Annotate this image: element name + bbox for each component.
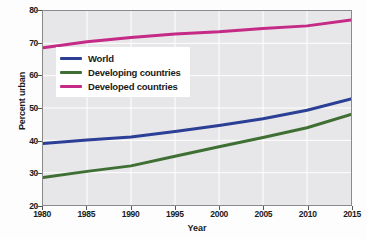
x-tick-label: 1995 (155, 209, 195, 219)
x-tick-label: 2005 (243, 209, 283, 219)
y-tick-label: 40 (14, 136, 38, 146)
x-tick-label: 1990 (111, 209, 151, 219)
x-tick-label: 1985 (66, 209, 106, 219)
legend-item-label: Developing countries (88, 67, 181, 78)
x-tick-label: 1980 (22, 209, 62, 219)
x-axis-tick-labels: 19801985199019952000200520102015 (0, 209, 367, 223)
x-axis-title: Year (42, 223, 352, 233)
y-tick-label: 50 (14, 103, 38, 113)
y-tick-label: 70 (14, 38, 38, 48)
legend-color-swatch (60, 57, 82, 60)
legend-color-swatch (60, 71, 82, 74)
legend-item: Developed countries (60, 79, 181, 93)
y-tick-label: 30 (14, 168, 38, 178)
legend-item-label: World (88, 53, 114, 64)
x-tick-label: 2010 (288, 209, 328, 219)
legend-item-label: Developed countries (88, 81, 178, 92)
urbanization-line-chart: Percent urban 80706050403020 19801985199… (0, 0, 367, 239)
series-line-developing-countries (43, 114, 351, 177)
y-tick-label: 60 (14, 70, 38, 80)
x-tick-label: 2000 (199, 209, 239, 219)
legend-item: Developing countries (60, 65, 181, 79)
chart-legend: WorldDeveloping countriesDeveloped count… (56, 47, 190, 97)
legend-color-swatch (60, 85, 82, 88)
y-tick-label: 80 (14, 5, 38, 15)
legend-item: World (60, 51, 181, 65)
plot-area (42, 10, 352, 206)
y-axis-tick-labels: 80706050403020 (12, 0, 38, 239)
plot-svg (43, 11, 351, 205)
x-tick-label: 2015 (332, 209, 367, 219)
series-line-world (43, 99, 351, 144)
